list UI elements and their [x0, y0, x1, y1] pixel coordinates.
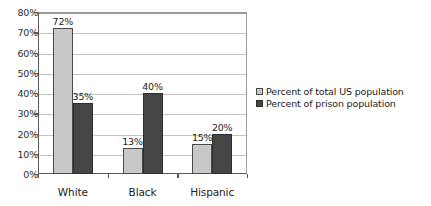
y-axis-tick-mark	[34, 53, 38, 54]
bar-black-series0	[123, 148, 143, 174]
y-axis-tick-label: 10%	[4, 148, 38, 159]
y-axis-tick-label: 70%	[4, 27, 38, 38]
x-axis-tick-mark	[108, 174, 109, 178]
legend: Percent of total US populationPercent of…	[256, 85, 404, 109]
bar-data-label: 35%	[67, 91, 99, 102]
bar-hispanic-series0	[192, 144, 212, 174]
bar-data-label: 40%	[137, 81, 169, 92]
legend-item-1: Percent of prison population	[256, 97, 404, 109]
y-axis-tick-mark	[34, 113, 38, 114]
x-axis-tick-mark	[177, 174, 178, 178]
y-axis: 0%10%20%30%40%50%60%70%80%	[0, 0, 38, 206]
bar-chart: 0%10%20%30%40%50%60%70%80% 72%35%13%40%1…	[0, 0, 431, 206]
bar-black-series1	[143, 93, 163, 174]
bar-hispanic-series1	[212, 134, 232, 175]
y-axis-tick-label: 30%	[4, 108, 38, 119]
y-axis-tick-label: 0%	[4, 169, 38, 180]
bar-white-series1	[73, 103, 93, 174]
bars-layer: 72%35%13%40%15%20%	[38, 12, 247, 174]
legend-label: Percent of prison population	[266, 98, 396, 109]
y-axis-tick-label: 60%	[4, 47, 38, 58]
legend-label: Percent of total US population	[266, 86, 404, 97]
y-axis-tick-mark	[34, 174, 38, 175]
x-axis-category-label-hispanic: Hispanic	[167, 186, 257, 198]
y-axis-tick-label: 20%	[4, 128, 38, 139]
y-axis-tick-mark	[34, 73, 38, 74]
legend-item-0: Percent of total US population	[256, 85, 404, 97]
x-axis-tick-mark	[38, 174, 39, 178]
y-axis-tick-mark	[34, 154, 38, 155]
bar-data-label: 20%	[206, 122, 238, 133]
x-axis-tick-mark	[247, 174, 248, 178]
y-axis-tick-label: 40%	[4, 88, 38, 99]
y-axis-tick-label: 50%	[4, 67, 38, 78]
y-axis-tick-mark	[34, 134, 38, 135]
y-axis-tick-mark	[34, 12, 38, 13]
y-axis-tick-label: 80%	[4, 7, 38, 18]
legend-swatch-icon	[256, 88, 263, 95]
y-axis-tick-mark	[34, 93, 38, 94]
y-axis-tick-mark	[34, 32, 38, 33]
bar-data-label: 72%	[47, 16, 79, 27]
legend-swatch-icon	[256, 100, 263, 107]
